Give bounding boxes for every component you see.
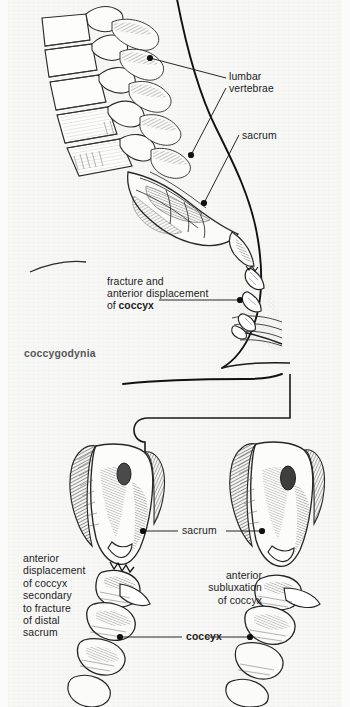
label-lumbar-vertebrae: lumbar vertebrae bbox=[229, 71, 274, 96]
label-sacrum-upper: sacrum bbox=[242, 130, 277, 142]
label-fracture-line2: anterior displacement bbox=[107, 288, 208, 300]
label-left-note: anterior displacement of coccyx secondar… bbox=[23, 553, 85, 640]
illustration-page: lumbar vertebrae sacrum fracture and ant… bbox=[0, 0, 350, 707]
label-coccyx-lower: coccyx bbox=[186, 631, 222, 643]
label-fracture-line1: fracture and bbox=[107, 276, 164, 288]
upper-abdominal-line bbox=[30, 261, 86, 272]
figure-caption: coccygodynia bbox=[24, 348, 96, 359]
label-sacrum-lower: sacrum bbox=[182, 525, 217, 537]
label-right-note: anterior subluxation of coccyx bbox=[204, 570, 262, 607]
sacrum-lateral bbox=[128, 172, 254, 266]
label-fracture-line3: of coccyx bbox=[107, 300, 154, 312]
label-fracture-line3-bold: coccyx bbox=[119, 300, 154, 311]
label-fracture-line3-prefix: of bbox=[107, 300, 119, 311]
lumbar-vertebrae-group bbox=[42, 7, 190, 179]
